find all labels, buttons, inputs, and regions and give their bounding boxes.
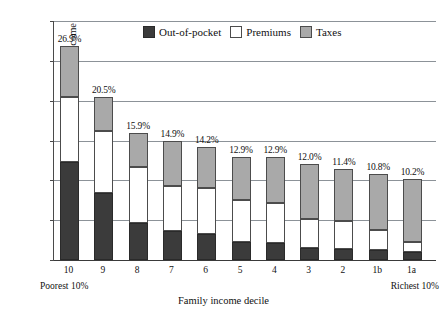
bar-segment-premiums[interactable] xyxy=(403,242,422,252)
y-axis-tick xyxy=(50,141,54,142)
bar-segment-out-of-pocket[interactable] xyxy=(163,231,182,260)
bar-segment-out-of-pocket[interactable] xyxy=(300,248,319,260)
bar-segment-out-of-pocket[interactable] xyxy=(403,252,422,260)
bar-segment-taxes[interactable] xyxy=(232,157,251,200)
x-axis-tick-label: 1a xyxy=(392,265,432,275)
bar-segment-taxes[interactable] xyxy=(300,164,319,219)
chart-figure: Per cent of family income 26.9%20.5%15.9… xyxy=(0,0,447,320)
bar-value-label: 14.2% xyxy=(184,135,230,145)
bar-stack[interactable]: 26.9% xyxy=(60,46,79,260)
bar-stack[interactable]: 10.2% xyxy=(403,179,422,260)
gridline xyxy=(54,61,436,62)
gridline xyxy=(54,21,436,22)
bar-segment-out-of-pocket[interactable] xyxy=(197,234,216,260)
legend-item[interactable]: Premiums xyxy=(230,26,291,38)
y-axis-tick xyxy=(50,180,54,181)
bar-stack[interactable]: 12.9% xyxy=(266,157,285,260)
bar-segment-taxes[interactable] xyxy=(403,179,422,242)
bar-segment-out-of-pocket[interactable] xyxy=(129,223,148,260)
bar-stack[interactable]: 10.8% xyxy=(369,174,388,260)
legend-swatch-icon xyxy=(300,26,312,38)
bar-stack[interactable]: 12.9% xyxy=(232,157,251,260)
legend-item[interactable]: Taxes xyxy=(300,26,342,38)
bar-segment-out-of-pocket[interactable] xyxy=(94,193,113,260)
bar-segment-taxes[interactable] xyxy=(369,174,388,230)
bar-segment-premiums[interactable] xyxy=(163,186,182,231)
bar-segment-out-of-pocket[interactable] xyxy=(369,250,388,260)
bar-segment-out-of-pocket[interactable] xyxy=(232,242,251,260)
y-axis-tick xyxy=(50,220,54,221)
bar-segment-taxes[interactable] xyxy=(334,169,353,221)
legend-label: Premiums xyxy=(246,26,291,38)
bar-segment-premiums[interactable] xyxy=(129,167,148,224)
gridline xyxy=(54,260,436,261)
bar-segment-premiums[interactable] xyxy=(334,221,353,249)
bar-segment-premiums[interactable] xyxy=(266,203,285,243)
bar-segment-taxes[interactable] xyxy=(197,147,216,188)
bar-segment-premiums[interactable] xyxy=(94,131,113,193)
legend-label: Taxes xyxy=(316,26,342,38)
bar-segment-out-of-pocket[interactable] xyxy=(334,249,353,260)
bar-segment-premiums[interactable] xyxy=(197,188,216,233)
y-axis-tick xyxy=(50,61,54,62)
bar-value-label: 10.2% xyxy=(390,167,436,177)
x-axis-title: Family income decile xyxy=(0,295,447,306)
x-axis-left-end-label: Poorest 10% xyxy=(40,281,88,291)
x-axis-right-end-label: Richest 10% xyxy=(391,281,439,291)
legend-label: Out-of-pocket xyxy=(159,26,221,38)
y-axis-tick xyxy=(50,21,54,22)
legend-item[interactable]: Out-of-pocket xyxy=(143,26,221,38)
bar-segment-taxes[interactable] xyxy=(163,141,182,186)
bar-segment-taxes[interactable] xyxy=(94,97,113,131)
bar-stack[interactable]: 20.5% xyxy=(94,97,113,260)
bar-segment-taxes[interactable] xyxy=(129,133,148,166)
legend-swatch-icon xyxy=(230,26,242,38)
bar-segment-premiums[interactable] xyxy=(300,219,319,248)
bar-segment-taxes[interactable] xyxy=(60,46,79,97)
bar-value-label: 26.9% xyxy=(47,34,93,44)
y-axis-tick xyxy=(50,101,54,102)
bar-stack[interactable]: 15.9% xyxy=(129,133,148,260)
bar-stack[interactable]: 12.0% xyxy=(300,164,319,260)
bar-segment-out-of-pocket[interactable] xyxy=(60,162,79,260)
bar-segment-premiums[interactable] xyxy=(232,200,251,241)
bar-value-label: 20.5% xyxy=(81,85,127,95)
legend-swatch-icon xyxy=(143,26,155,38)
plot-area: 26.9%20.5%15.9%14.9%14.2%12.9%12.9%12.0%… xyxy=(53,21,435,260)
y-axis-tick xyxy=(50,260,54,261)
bar-segment-out-of-pocket[interactable] xyxy=(266,243,285,260)
bar-stack[interactable]: 14.2% xyxy=(197,147,216,260)
bar-stack[interactable]: 11.4% xyxy=(334,169,353,260)
bar-stack[interactable]: 14.9% xyxy=(163,141,182,260)
bar-segment-premiums[interactable] xyxy=(60,97,79,162)
legend: Out-of-pocketPremiumsTaxes xyxy=(143,26,341,38)
bar-segment-taxes[interactable] xyxy=(266,157,285,203)
bar-segment-premiums[interactable] xyxy=(369,230,388,250)
